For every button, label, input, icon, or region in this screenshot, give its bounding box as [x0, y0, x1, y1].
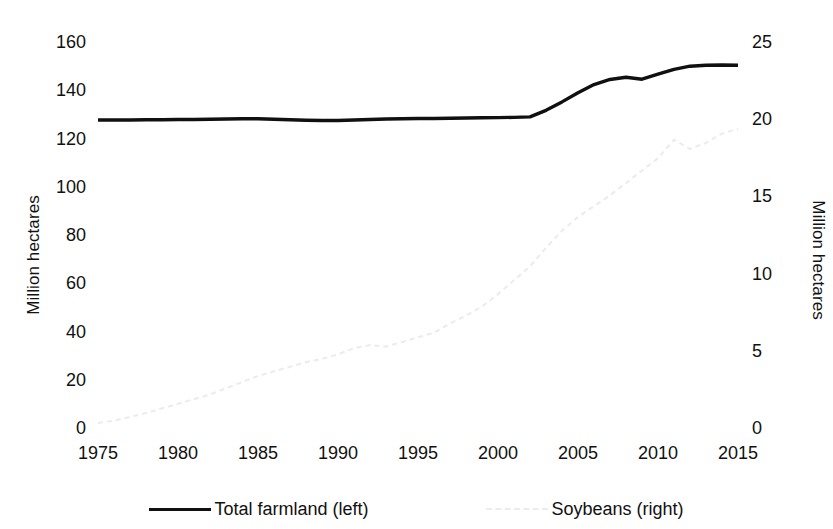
- y-axis-left-tick-label: 80: [26, 225, 86, 246]
- x-axis-tick-label: 1995: [383, 443, 453, 464]
- y-axis-left-tick-label: 160: [26, 32, 86, 53]
- series-line-total-farmland: [98, 65, 738, 120]
- chart-legend: Total farmland (left)Soybeans (right): [0, 492, 833, 526]
- y-axis-left-tick-label: 120: [26, 129, 86, 150]
- legend-label: Total farmland (left): [214, 499, 368, 520]
- y-axis-left-tick-label: 0: [26, 418, 86, 439]
- series-line-soybeans: [98, 129, 738, 423]
- legend-entry[interactable]: Soybeans (right): [486, 499, 683, 520]
- x-axis-tick-label: 1975: [63, 443, 133, 464]
- chart-figure: Million hectares Million hectares 020406…: [0, 0, 833, 529]
- x-axis-tick-label: 1990: [303, 443, 373, 464]
- y-axis-right-tick-label: 15: [752, 186, 812, 207]
- y-axis-left-tick-label: 140: [26, 80, 86, 101]
- x-axis-tick-label: 2015: [703, 443, 773, 464]
- y-axis-right-tick-label: 5: [752, 341, 812, 362]
- x-axis-tick-label: 2005: [543, 443, 613, 464]
- x-axis-tick-label: 2000: [463, 443, 533, 464]
- x-axis-tick-label: 1985: [223, 443, 293, 464]
- y-axis-right-tick-label: 20: [752, 109, 812, 130]
- legend-label: Soybeans (right): [551, 499, 683, 520]
- y-axis-left-tick-label: 100: [26, 177, 86, 198]
- y-axis-left-tick-label: 20: [26, 370, 86, 391]
- x-axis-tick-label: 2010: [623, 443, 693, 464]
- y-axis-right-tick-label: 0: [752, 418, 812, 439]
- y-axis-left-tick-label: 40: [26, 322, 86, 343]
- x-axis-tick-label: 1980: [143, 443, 213, 464]
- y-axis-right-tick-label: 25: [752, 32, 812, 53]
- y-axis-right-tick-label: 10: [752, 264, 812, 285]
- legend-entry[interactable]: Total farmland (left): [149, 499, 368, 520]
- y-axis-left-tick-label: 60: [26, 273, 86, 294]
- legend-key-dashed-line-icon: [486, 502, 548, 516]
- legend-key-solid-line-icon: [149, 502, 211, 516]
